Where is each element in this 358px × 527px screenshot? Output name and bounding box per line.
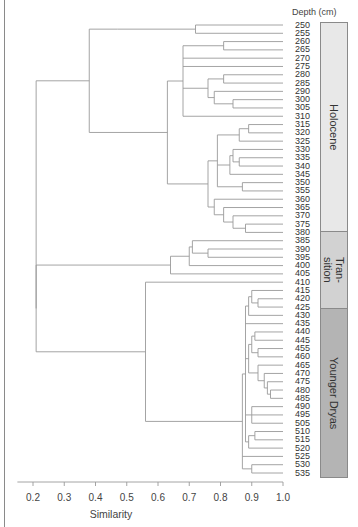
zone-younger-dryas: Younger Dryas [320, 308, 348, 478]
x-tick-label: 0.5 [112, 492, 142, 503]
zone-holocene: Holocene [320, 22, 348, 232]
zone-label-younger-dryas: Younger Dryas [328, 357, 340, 429]
zone-transition: Tran- sition [320, 231, 348, 309]
x-tick-label: 1.0 [268, 492, 298, 503]
x-tick-label: 0.9 [237, 492, 267, 503]
depth-label: 535 [292, 469, 310, 478]
x-tick-label: 0.7 [174, 492, 204, 503]
x-tick-label: 0.8 [206, 492, 236, 503]
x-tick-label: 0.3 [49, 492, 79, 503]
zone-label-holocene: Holocene [328, 104, 340, 150]
zone-label-transition: Tran- sition [322, 257, 346, 283]
x-axis-title: Similarity [71, 508, 151, 520]
x-tick-label: 0.4 [81, 492, 111, 503]
x-tick-label: 0.2 [18, 492, 48, 503]
x-tick-label: 0.6 [143, 492, 173, 503]
